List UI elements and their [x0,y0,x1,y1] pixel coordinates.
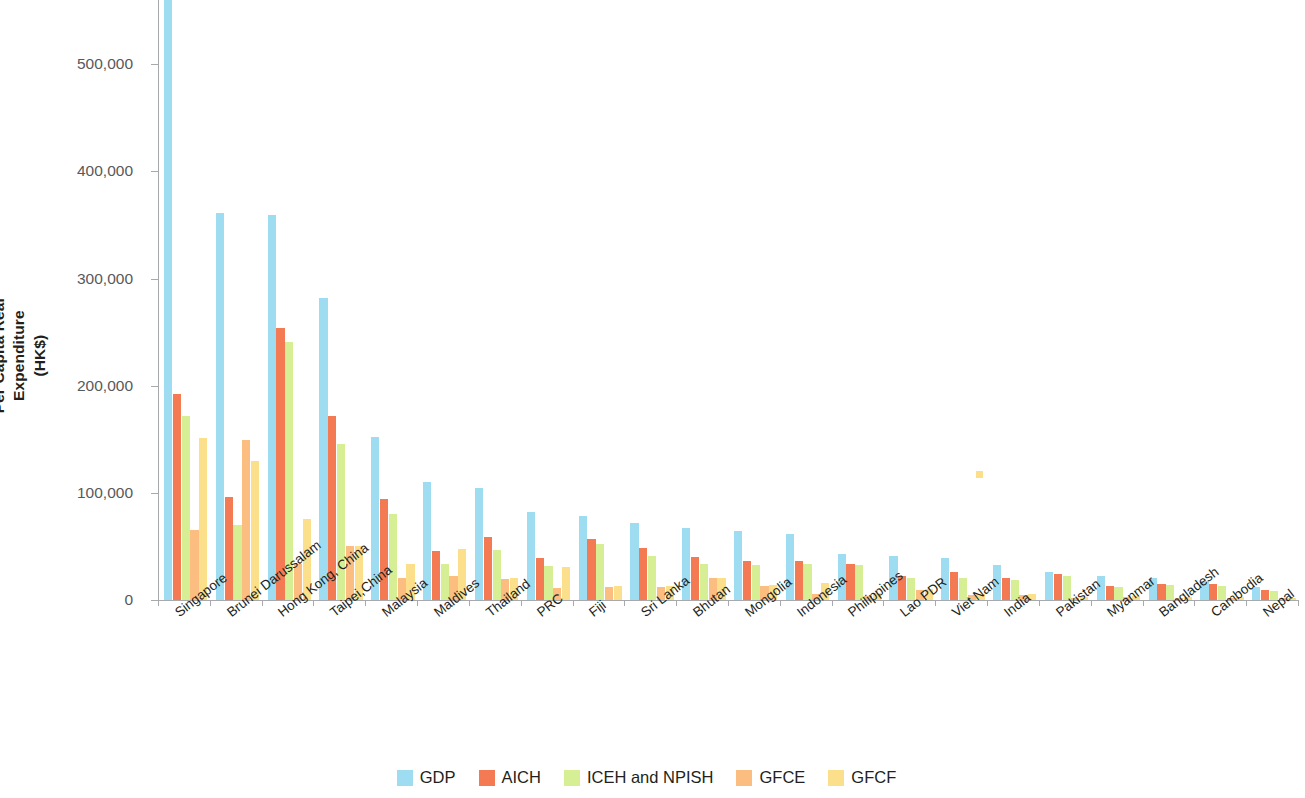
x-tick-mark [1194,600,1195,606]
chart-legend: GDPAICHICEH and NPISHGFCEGFCF [0,768,1305,787]
x-tick-mark [935,600,936,606]
legend-label: GFCF [851,768,896,787]
y-tick-label: 0 [13,591,133,609]
chart-figure: Per Capita Real Expenditure (HK$) 0100,0… [0,0,1305,798]
x-tick-mark [832,600,833,606]
bar-gfcf-singapore [199,438,207,600]
x-tick-mark [1039,600,1040,606]
bar-aich-maldives [432,551,440,600]
y-tick-mark [151,279,158,280]
legend-swatch-icon [397,770,413,786]
bar-gdp-sri-lanka [630,523,638,600]
bar-gfcf-fiji [614,586,622,600]
x-tick-mark [210,600,211,606]
x-tick-mark [158,600,159,606]
bar-aich-viet-nam [950,572,958,600]
legend-label: AICH [502,768,541,787]
legend-item-gfcf[interactable]: GFCF [828,768,896,787]
legend-item-aich[interactable]: AICH [479,768,541,787]
x-tick-mark [1246,600,1247,606]
bar-aich-sri-lanka [639,548,647,601]
legend-item-iceh-and-npish[interactable]: ICEH and NPISH [564,768,714,787]
bar-gdp-singapore [164,0,172,600]
x-tick-mark [780,600,781,606]
bar-gdp-mongolia [734,531,742,600]
bar-aich-singapore [173,394,181,600]
bar-aich-malaysia [380,499,388,600]
x-tick-mark [573,600,574,606]
y-axis-title-line2: (HK$) [31,335,48,377]
bar-aich-cambodia [1209,584,1217,600]
legend-label: GDP [420,768,456,787]
y-tick-mark [151,171,158,172]
x-tick-mark [883,600,884,606]
x-tick-mark [469,600,470,606]
x-tick-mark [365,600,366,606]
x-tick-mark [313,600,314,606]
bar-gfcf-brunei-darussalam [251,461,259,600]
bar-iceh-and-npish-brunei-darussalam [233,525,241,600]
y-tick-label: 500,000 [13,55,133,73]
legend-swatch-icon [828,770,844,786]
bar-gdp-hong-kong-china [268,215,276,600]
bar-gfce-fiji [605,587,613,600]
legend-swatch-icon [564,770,580,786]
bar-aich-pakistan [1054,574,1062,600]
bar-aich-india [1002,578,1010,601]
x-tick-mark [676,600,677,606]
bar-gfcf-prc [562,567,570,600]
y-tick-label: 100,000 [13,484,133,502]
bar-aich-prc [536,558,544,600]
bar-gdp-brunei-darussalam [216,213,224,600]
x-tick-mark [1143,600,1144,606]
legend-swatch-icon [479,770,495,786]
y-tick-mark [151,493,158,494]
bar-iceh-and-npish-thailand [493,550,501,600]
bar-gdp-pakistan [1045,572,1053,600]
bar-aich-hong-kong-china [276,328,284,600]
y-tick-mark [151,386,158,387]
legend-label: ICEH and NPISH [587,768,714,787]
y-tick-label: 400,000 [13,162,133,180]
bar-gdp-fiji [579,516,587,600]
bar-aich-nepal [1261,590,1269,600]
bar-aich-bhutan [691,557,699,600]
bar-iceh-and-npish-fiji [596,544,604,600]
x-tick-mark [521,600,522,606]
bar-iceh-and-npish-malaysia [389,514,397,600]
bar-aich-thailand [484,537,492,600]
orphan-gfcf-mark [976,471,983,478]
plot-area: 0100,000200,000300,000400,000500,000 Sin… [158,0,1298,600]
legend-swatch-icon [736,770,752,786]
x-tick-mark [262,600,263,606]
bar-aich-mongolia [743,561,751,600]
y-axis-title-line1: Per Capita Real Expenditure [0,298,28,413]
legend-item-gdp[interactable]: GDP [397,768,456,787]
bar-gfce-brunei-darussalam [242,440,250,600]
legend-label: GFCE [759,768,805,787]
bar-gdp-taipei-china [319,298,327,600]
bar-iceh-and-npish-singapore [182,416,190,600]
x-tick-mark [417,600,418,606]
x-tick-mark [1091,600,1092,606]
x-tick-mark [1298,600,1299,606]
bar-aich-fiji [587,539,595,600]
bar-aich-indonesia [795,561,803,600]
x-tick-mark [624,600,625,606]
bar-aich-bangladesh [1157,584,1165,600]
y-tick-mark [151,600,158,601]
x-tick-mark [728,600,729,606]
y-tick-mark [151,64,158,65]
x-tick-mark [987,600,988,606]
bar-aich-myanmar [1106,586,1114,600]
y-tick-label: 200,000 [13,377,133,395]
y-axis-line [158,0,159,600]
legend-item-gfce[interactable]: GFCE [736,768,805,787]
y-tick-label: 300,000 [13,270,133,288]
